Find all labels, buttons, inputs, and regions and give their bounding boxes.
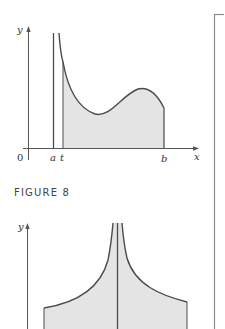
- side-panel-border: [215, 14, 225, 329]
- y-axis-arrow-icon-bottom: [25, 223, 29, 229]
- x-axis-label: x: [194, 151, 200, 162]
- shaded-area: [63, 62, 164, 148]
- y-axis-arrow-icon: [26, 26, 30, 32]
- figure-caption: FIGURE 8: [14, 187, 70, 198]
- tick-label-a: a: [50, 152, 56, 163]
- tick-label-b: b: [161, 153, 167, 164]
- figure-canvas: y 0 a t b x FIGURE 8 y: [0, 0, 224, 329]
- shaded-area-bottom: [44, 223, 187, 329]
- bottom-figure: y: [17, 221, 187, 329]
- origin-label: 0: [17, 152, 23, 163]
- tick-label-t: t: [60, 152, 65, 163]
- top-figure: y 0 a t b x: [16, 24, 200, 164]
- y-axis-label: y: [16, 24, 23, 35]
- y-axis-label-bottom: y: [17, 221, 24, 232]
